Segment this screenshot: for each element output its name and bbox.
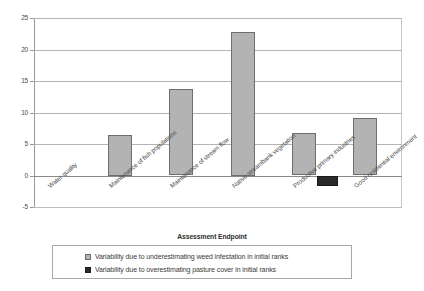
gridline bbox=[34, 207, 402, 208]
legend-item-label: Variability due to underestimating weed … bbox=[95, 253, 288, 260]
y-axis-tick-label: -5 bbox=[4, 203, 28, 210]
bar bbox=[317, 176, 338, 186]
legend-swatch-icon bbox=[85, 254, 91, 260]
legend-item: Variability due to underestimating weed … bbox=[53, 250, 351, 263]
y-axis-tick-label: 25 bbox=[4, 14, 28, 21]
chart-legend: Variability due to underestimating weed … bbox=[52, 245, 352, 279]
y-axis-tick-label: 20 bbox=[4, 46, 28, 53]
gridline bbox=[34, 50, 402, 51]
y-axis-tick-mark bbox=[30, 113, 34, 114]
y-axis-tick-mark bbox=[30, 207, 34, 208]
gridline bbox=[34, 18, 402, 19]
legend-item-label: Variability due to overestimating pastur… bbox=[95, 266, 276, 273]
y-axis-tick-label: 5 bbox=[4, 140, 28, 147]
y-axis-tick-mark bbox=[30, 81, 34, 82]
gridline bbox=[34, 81, 402, 82]
y-axis-tick-label: 15 bbox=[4, 77, 28, 84]
bar-chart: 2520151050-5 Water qualityMaintenance of… bbox=[0, 0, 424, 291]
bar bbox=[231, 32, 255, 176]
x-axis-title: Assessment Endpoint bbox=[0, 233, 424, 240]
y-axis-tick-mark bbox=[30, 176, 34, 177]
legend-swatch-icon bbox=[85, 267, 91, 273]
gridline bbox=[34, 176, 402, 177]
y-axis-tick-mark bbox=[30, 18, 34, 19]
y-axis-tick-label: 0 bbox=[4, 172, 28, 179]
legend-item: Variability due to overestimating pastur… bbox=[53, 263, 351, 276]
y-axis-tick-label: 10 bbox=[4, 109, 28, 116]
y-axis-tick-mark bbox=[30, 144, 34, 145]
y-axis-tick-mark bbox=[30, 50, 34, 51]
gridline bbox=[34, 113, 402, 114]
